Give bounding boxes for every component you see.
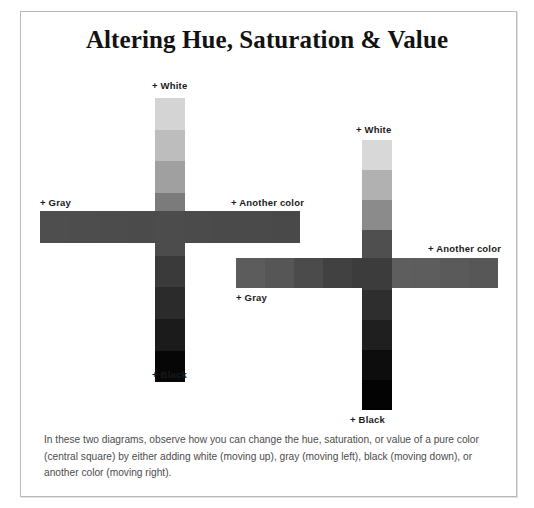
diagram-2-swatch-left-2 (294, 258, 323, 288)
diagram-1-swatch-left-3 (69, 211, 98, 243)
diagram-1-swatch-right-1 (184, 211, 213, 243)
diagram-1-swatch-down-2 (155, 287, 185, 319)
diagram-1-center-swatch (155, 211, 185, 243)
page-title: Altering Hue, Saturation & Value (0, 26, 534, 54)
diagram-2-swatch-left-4 (236, 258, 265, 288)
diagram-2-label-black: + Black (350, 414, 385, 425)
diagram-1-swatch-up-4 (155, 98, 185, 130)
diagram-2-swatch-down-3 (362, 350, 392, 380)
diagram-2-swatch-up-3 (362, 170, 392, 200)
diagram-2-label-another-color: + Another color (428, 243, 501, 254)
diagram-1-swatch-right-2 (213, 211, 242, 243)
diagram-2-swatch-left-1 (323, 258, 352, 288)
diagram-2-swatch-down-4 (362, 380, 392, 410)
diagram-2-label-white: + White (356, 124, 391, 135)
diagram-1-label-white: + White (152, 80, 187, 91)
diagram-1-swatch-left-2 (98, 211, 127, 243)
diagram-2-center-swatch (362, 258, 392, 288)
diagram-1-label-black: + Black (152, 369, 187, 380)
diagram-2-swatch-right-3 (440, 258, 469, 288)
diagram-1-label-gray: + Gray (40, 197, 71, 208)
diagram-2-label-gray: + Gray (236, 292, 267, 303)
diagram-1-swatch-down-3 (155, 319, 185, 351)
diagram-1-swatch-down-1 (155, 256, 185, 288)
diagram-2-swatch-right-2 (411, 258, 440, 288)
diagram-1-swatch-left-4 (40, 211, 69, 243)
diagram-2-swatch-down-2 (362, 320, 392, 350)
diagram-2-swatch-right-4 (469, 258, 498, 288)
diagram-1-swatch-up-3 (155, 130, 185, 162)
diagram-1-swatch-up-2 (155, 161, 185, 193)
diagram-2-swatch-left-3 (265, 258, 294, 288)
diagram-1-swatch-left-1 (127, 211, 156, 243)
diagram-1-label-another-color: + Another color (231, 197, 304, 208)
diagram-1-swatch-right-4 (271, 211, 300, 243)
diagram-2-swatch-up-2 (362, 200, 392, 230)
diagram-2-swatch-down-1 (362, 290, 392, 320)
caption-text: In these two diagrams, observe how you c… (44, 432, 496, 482)
diagram-1-swatch-right-3 (242, 211, 271, 243)
diagram-2-swatch-up-1 (362, 230, 392, 260)
diagram-2-swatch-up-4 (362, 140, 392, 170)
page-frame (20, 11, 517, 497)
